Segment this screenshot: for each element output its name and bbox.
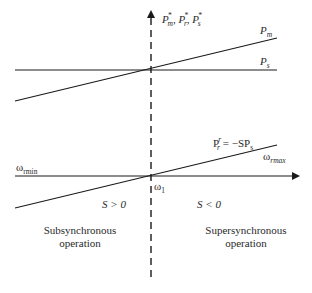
slip-negative-label: S < 0	[197, 198, 221, 210]
supersynchronous-region-label: Supersynchronous operation	[187, 224, 305, 250]
omega-1-label: ω1	[154, 180, 165, 197]
ps-label: Ps	[260, 55, 270, 72]
subsynchronous-region-label: Subsynchronous operation	[22, 224, 138, 250]
omega-rmax-label: ωrmax	[263, 150, 286, 167]
y-axis-label: P*m, P*r, P*s	[162, 10, 201, 30]
omega-rmin-label: ωrmin	[16, 161, 37, 178]
power-speed-diagram: P*m, P*r, P*s Pm Ps Prr = −SPs ωrmax ωrm…	[0, 0, 312, 293]
pr-equation-label: Prr = −SPs	[213, 134, 253, 154]
pm-label: Pm	[260, 24, 272, 41]
slip-positive-label: S > 0	[102, 198, 126, 210]
